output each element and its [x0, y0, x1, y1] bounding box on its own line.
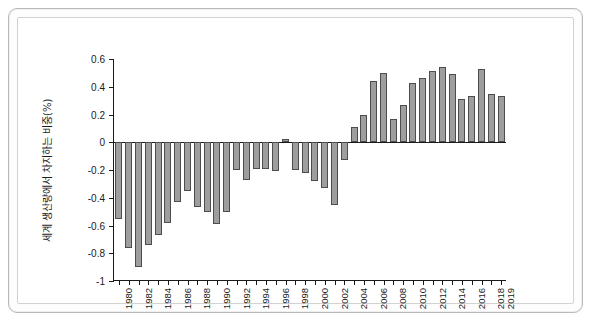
x-axis-tick — [403, 281, 404, 285]
x-axis-tick-label: 1984 — [162, 288, 173, 309]
y-axis-tick-label: -1 — [96, 276, 105, 287]
x-axis-tick — [129, 281, 130, 285]
x-axis-tick — [207, 281, 208, 285]
y-axis-title-label: 세계 생산량에서 차지하는 비중(%) — [40, 98, 55, 242]
x-axis-tick-label: 2002 — [339, 288, 350, 309]
y-axis-tick — [109, 59, 114, 60]
x-axis-tick-label: 2000 — [319, 288, 330, 309]
bar — [331, 142, 338, 204]
y-axis-tick-label: -0.8 — [88, 248, 105, 259]
bar — [115, 142, 122, 218]
x-axis-tick-label: 2010 — [417, 288, 428, 309]
x-axis-tick — [452, 281, 453, 285]
y-axis-tick-label: 0.4 — [91, 81, 105, 92]
bar — [135, 142, 142, 267]
bar — [351, 127, 358, 142]
bar — [341, 142, 348, 160]
x-axis-tick — [315, 281, 316, 285]
bar — [370, 81, 377, 142]
x-axis-tick — [295, 281, 296, 285]
x-axis-tick — [188, 281, 189, 285]
bar — [458, 99, 465, 143]
y-axis-tick — [109, 115, 114, 116]
x-axis-tick — [374, 281, 375, 285]
bar — [488, 94, 495, 143]
x-axis-tick-label: 1994 — [260, 288, 271, 309]
bar — [380, 73, 387, 142]
bar — [125, 142, 132, 247]
bar — [174, 142, 181, 202]
x-axis-tick — [472, 281, 473, 285]
y-axis-tick-label: 0.6 — [91, 54, 105, 65]
bar — [184, 142, 191, 191]
x-axis-tick-label: 2019 — [505, 288, 516, 309]
bar — [223, 142, 230, 211]
y-axis-tick — [109, 170, 114, 171]
bar — [439, 67, 446, 143]
bar — [400, 105, 407, 142]
x-axis-tick — [119, 281, 120, 285]
plot-area: 0.60.40.20-0.2-0.4-0.6-0.8-1 19801982198… — [114, 59, 506, 281]
bar — [155, 142, 162, 235]
x-axis-tick-label: 2008 — [397, 288, 408, 309]
x-axis-tick — [325, 281, 326, 285]
y-axis-tick-label: -0.4 — [88, 192, 105, 203]
bar — [321, 142, 328, 188]
y-axis-title: 세계 생산량에서 차지하는 비중(%) — [40, 59, 54, 281]
bar — [311, 142, 318, 181]
y-axis-tick — [109, 142, 114, 143]
y-axis-tick-label: 0.2 — [91, 109, 105, 120]
x-axis-tick — [344, 281, 345, 285]
bar — [498, 96, 505, 142]
x-axis-tick-label: 1982 — [143, 288, 154, 309]
bar — [194, 142, 201, 207]
y-axis-tick-label: -0.6 — [88, 220, 105, 231]
x-axis-tick — [286, 281, 287, 285]
bar — [164, 142, 171, 222]
bar — [292, 142, 299, 170]
x-axis-tick — [423, 281, 424, 285]
x-axis-tick-label: 2004 — [358, 288, 369, 309]
x-axis-tick — [384, 281, 385, 285]
x-axis-tick — [305, 281, 306, 285]
bar — [478, 69, 485, 143]
y-axis-tick — [109, 253, 114, 254]
y-axis-tick-label: -0.2 — [88, 165, 105, 176]
x-axis-tick — [354, 281, 355, 285]
x-axis-tick — [393, 281, 394, 285]
x-axis-tick-label: 1996 — [280, 288, 291, 309]
bar — [262, 142, 269, 168]
y-axis-tick — [109, 87, 114, 88]
bar — [243, 142, 250, 179]
x-axis-tick-label: 2016 — [476, 288, 487, 309]
bar — [429, 71, 436, 142]
figure-inner-panel: 세계 생산량에서 차지하는 비중(%) 0.60.40.20-0.2-0.4-0… — [17, 17, 574, 304]
x-axis-tick-label: 1988 — [201, 288, 212, 309]
x-axis-tick — [227, 281, 228, 285]
x-axis-tick — [197, 281, 198, 285]
x-axis-tick — [491, 281, 492, 285]
x-axis-tick — [256, 281, 257, 285]
x-axis-tick-label: 1986 — [182, 288, 193, 309]
bar — [253, 142, 260, 168]
bar — [272, 142, 279, 171]
x-axis-tick — [433, 281, 434, 285]
bar — [302, 142, 309, 173]
bar — [233, 142, 240, 170]
figure-outer-frame: 세계 생산량에서 차지하는 비중(%) 0.60.40.20-0.2-0.4-0… — [8, 8, 583, 313]
x-axis-tick-label: 2006 — [378, 288, 389, 309]
bar — [204, 142, 211, 211]
bar — [409, 83, 416, 143]
bar — [449, 74, 456, 142]
x-axis-tick — [442, 281, 443, 285]
bar — [419, 78, 426, 143]
x-axis-tick-label: 2012 — [437, 288, 448, 309]
y-axis-tick — [109, 281, 114, 282]
y-axis-tick-label: 0 — [99, 137, 105, 148]
x-axis-tick-label: 1980 — [123, 288, 134, 309]
x-axis-tick — [501, 281, 502, 285]
x-axis-tick — [276, 281, 277, 285]
x-axis-tick — [148, 281, 149, 285]
bar — [282, 139, 289, 142]
x-axis-tick-label: 1992 — [241, 288, 252, 309]
